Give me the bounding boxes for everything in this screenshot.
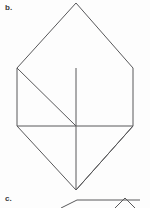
figure-c-diagram-partial (0, 0, 150, 208)
figure-panel: b. c. (0, 0, 150, 208)
